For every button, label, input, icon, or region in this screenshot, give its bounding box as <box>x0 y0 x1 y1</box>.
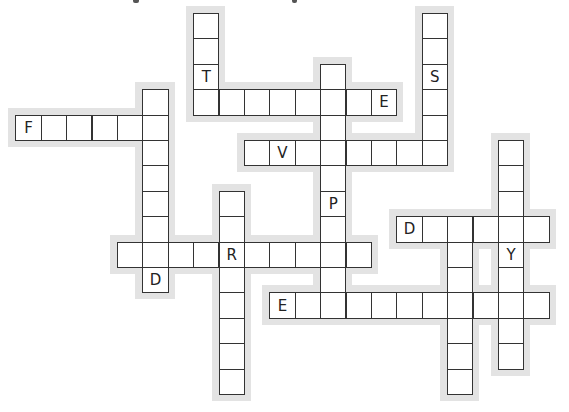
crossword-cell[interactable] <box>142 140 168 166</box>
crossword-cell[interactable] <box>422 89 448 115</box>
crossword-cell[interactable] <box>346 292 372 318</box>
given-letter: V <box>277 144 287 162</box>
crossword-cell[interactable] <box>219 191 245 217</box>
crossword-cell[interactable]: V <box>269 140 295 166</box>
crossword-cell[interactable] <box>447 292 473 318</box>
crossword-cell[interactable] <box>142 216 168 242</box>
crossword-cell[interactable]: E <box>371 89 397 115</box>
crossword-cell[interactable] <box>320 64 346 90</box>
crossword-cell[interactable] <box>473 216 499 242</box>
crossword-cell[interactable] <box>498 343 524 369</box>
crossword-cell[interactable] <box>295 89 321 115</box>
crossword-cell[interactable] <box>371 292 397 318</box>
crossword-cell[interactable] <box>498 216 524 242</box>
crossword-cell[interactable] <box>219 216 245 242</box>
crossword-cell[interactable] <box>193 242 219 268</box>
crossword-cell[interactable] <box>295 140 321 166</box>
crossword-cell[interactable] <box>142 115 168 141</box>
crossword-cell[interactable] <box>346 140 372 166</box>
crossword-cell[interactable] <box>346 242 372 268</box>
crossword-board: TESFDPVRDYE <box>0 0 569 412</box>
crossword-cell[interactable]: P <box>320 191 346 217</box>
crossword-cell[interactable]: D <box>396 216 422 242</box>
crossword-cell[interactable] <box>498 140 524 166</box>
crossword-cell[interactable] <box>320 89 346 115</box>
crossword-cell[interactable] <box>320 165 346 191</box>
crossword-cell[interactable] <box>320 267 346 293</box>
crossword-cell[interactable] <box>320 242 346 268</box>
crossword-cell[interactable] <box>422 140 448 166</box>
crossword-cell[interactable] <box>320 292 346 318</box>
crossword-cell[interactable] <box>396 292 422 318</box>
crossword-cell[interactable]: Y <box>498 242 524 268</box>
crossword-cell[interactable] <box>219 267 245 293</box>
crossword-cell[interactable] <box>193 13 219 39</box>
crossword-cell[interactable] <box>473 292 499 318</box>
crossword-cell[interactable] <box>371 140 397 166</box>
crossword-cell[interactable] <box>219 369 245 395</box>
crossword-cell[interactable] <box>142 242 168 268</box>
crossword-cell[interactable] <box>168 242 194 268</box>
given-letter: R <box>226 246 236 264</box>
crossword-cell[interactable] <box>295 292 321 318</box>
crossword-cell[interactable] <box>269 89 295 115</box>
crossword-cell[interactable] <box>193 89 219 115</box>
crossword-cell[interactable]: E <box>269 292 295 318</box>
crossword-cell[interactable] <box>219 89 245 115</box>
crossword-cell[interactable] <box>498 318 524 344</box>
crossword-cell[interactable]: F <box>15 115 41 141</box>
given-letter: P <box>329 195 338 213</box>
given-letter: F <box>24 119 33 137</box>
crossword-cell[interactable] <box>346 89 372 115</box>
crossword-cell[interactable] <box>295 242 321 268</box>
crossword-cell[interactable] <box>498 267 524 293</box>
crossword-cell[interactable] <box>447 242 473 268</box>
crossword-cell[interactable] <box>447 267 473 293</box>
crossword-cell[interactable] <box>142 165 168 191</box>
crossword-cell[interactable] <box>422 38 448 64</box>
crossword-cell[interactable] <box>219 292 245 318</box>
crossword-cell[interactable] <box>269 242 295 268</box>
given-letter: E <box>379 93 388 111</box>
crossword-cell[interactable] <box>523 292 549 318</box>
crossword-cell[interactable] <box>244 242 270 268</box>
crossword-cell[interactable] <box>523 216 549 242</box>
crossword-cell[interactable] <box>422 292 448 318</box>
crossword-cell[interactable] <box>117 115 143 141</box>
crossword-cell[interactable] <box>498 191 524 217</box>
crossword-cell[interactable] <box>447 369 473 395</box>
crossword-cell[interactable] <box>422 216 448 242</box>
crossword-cell[interactable]: T <box>193 64 219 90</box>
crossword-cell[interactable] <box>320 140 346 166</box>
given-letter: E <box>278 297 287 315</box>
given-letter: S <box>430 68 440 86</box>
crossword-cell[interactable] <box>447 343 473 369</box>
crossword-cell[interactable] <box>142 191 168 217</box>
crossword-cell[interactable] <box>244 89 270 115</box>
crossword-cell[interactable] <box>422 115 448 141</box>
crossword-cell[interactable] <box>142 89 168 115</box>
given-letter: D <box>404 220 416 238</box>
crossword-cell[interactable] <box>66 115 92 141</box>
crossword-cell[interactable] <box>447 318 473 344</box>
crossword-cell[interactable] <box>244 140 270 166</box>
crossword-cell[interactable]: S <box>422 64 448 90</box>
crossword-cell[interactable] <box>41 115 67 141</box>
crossword-cell[interactable] <box>320 216 346 242</box>
crossword-cell[interactable]: D <box>142 267 168 293</box>
crossword-cell[interactable] <box>193 38 219 64</box>
crossword-cell[interactable] <box>422 13 448 39</box>
crossword-cell[interactable] <box>219 318 245 344</box>
given-letter: Y <box>507 246 516 264</box>
crossword-cell[interactable] <box>219 343 245 369</box>
given-letter: T <box>202 68 211 86</box>
crossword-cell[interactable] <box>447 216 473 242</box>
crossword-cell[interactable] <box>396 140 422 166</box>
crossword-cell[interactable] <box>498 165 524 191</box>
crossword-cell[interactable]: R <box>219 242 245 268</box>
crossword-cell[interactable] <box>320 115 346 141</box>
clipped-title-fragment <box>133 0 139 3</box>
crossword-cell[interactable] <box>92 115 118 141</box>
crossword-cell[interactable] <box>117 242 143 268</box>
crossword-cell[interactable] <box>498 292 524 318</box>
